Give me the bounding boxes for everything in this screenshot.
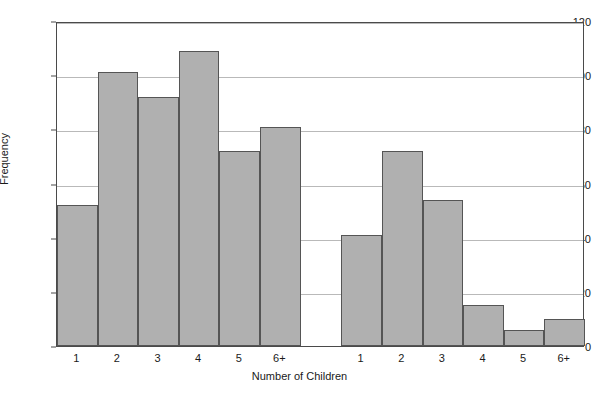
- x-tick-label: 1: [358, 352, 364, 364]
- bar: [463, 305, 504, 346]
- bar: [423, 200, 464, 346]
- x-tick-label: 5: [520, 352, 526, 364]
- bar: [98, 72, 139, 346]
- bar: [260, 127, 301, 346]
- x-tick-label: 5: [236, 352, 242, 364]
- histogram-figure: Frequency 020406080100120 Number of Chil…: [0, 0, 599, 397]
- bar: [57, 205, 98, 346]
- gridline-0: [57, 348, 583, 349]
- bar: [382, 151, 423, 346]
- x-tick-label: 3: [154, 352, 160, 364]
- bar: [544, 319, 585, 346]
- bar: [341, 235, 382, 346]
- x-tick-label: 2: [398, 352, 404, 364]
- x-tick-label: 4: [479, 352, 485, 364]
- x-tick-label: 1: [73, 352, 79, 364]
- x-tick-label: 4: [195, 352, 201, 364]
- plot-area: [56, 22, 584, 347]
- bar: [504, 330, 545, 346]
- x-axis-title: Number of Children: [0, 370, 599, 382]
- x-tick-label: 6+: [557, 352, 570, 364]
- bar: [179, 51, 220, 346]
- gridline-120: [57, 23, 583, 24]
- y-axis-title: Frequency: [0, 133, 10, 185]
- x-tick-label: 2: [114, 352, 120, 364]
- bar: [219, 151, 260, 346]
- x-tick-label: 3: [439, 352, 445, 364]
- bar: [138, 97, 179, 346]
- x-tick-label: 6+: [273, 352, 286, 364]
